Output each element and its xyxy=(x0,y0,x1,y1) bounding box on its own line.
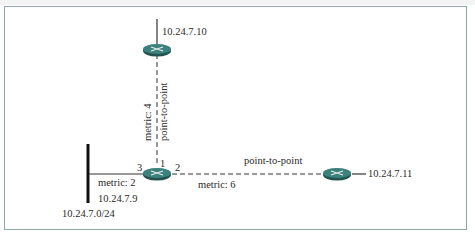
router-icon[interactable] xyxy=(143,168,171,181)
horizontal-link-metric: metric: 6 xyxy=(198,180,236,191)
network-diagram xyxy=(0,0,475,239)
horizontal-link-type: point-to-point xyxy=(244,156,302,167)
lan-metric: metric: 2 xyxy=(98,178,136,189)
router-icon[interactable] xyxy=(323,168,351,181)
top-router-address: 10.24.7.10 xyxy=(162,27,207,38)
vertical-link-metric: metric: 4 xyxy=(143,103,154,141)
interface-3-label: 3 xyxy=(137,163,142,174)
interface-1-label: 1 xyxy=(160,159,165,170)
interface-2-label: 2 xyxy=(175,163,180,174)
router-icon[interactable] xyxy=(143,44,171,57)
lan-subnet: 10.24.7.0/24 xyxy=(62,209,115,220)
right-router-address: 10.24.7.11 xyxy=(368,169,412,180)
lan-interface-address: 10.24.7.9 xyxy=(98,194,137,205)
vertical-link-type: point-to-point xyxy=(159,83,170,141)
